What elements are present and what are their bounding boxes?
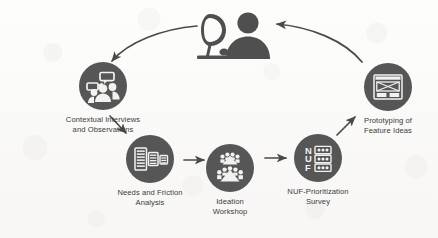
nuf-rating-chart-icon: N U F — [294, 134, 342, 182]
node-prototyping-feature-ideas[interactable]: Prototyping of Feature Ideas — [340, 63, 436, 136]
node-contextual-interviews[interactable]: Contextual Interviews and Observations — [38, 62, 168, 135]
connector-hub-to-interviews — [112, 26, 197, 61]
wireframe-mockup-icon — [364, 63, 412, 111]
node-circle-prototyping-feature-ideas — [364, 63, 412, 111]
node-label-ideation-workshop: Ideation Workshop — [213, 197, 248, 217]
video-interview-people-icon — [79, 62, 127, 110]
group-brainstorm-icon — [206, 144, 254, 192]
node-label-contextual-interviews: Contextual Interviews and Observations — [66, 115, 140, 135]
nuf-letter-f: F — [305, 162, 311, 173]
connector-prototyping-to-hub — [277, 24, 362, 62]
person-with-monitor-icon — [196, 8, 276, 70]
node-circle-nuf-prioritization-survey: N U F — [294, 134, 342, 182]
hub-user-at-computer — [196, 8, 276, 70]
node-label-nuf-prioritization-survey: NUF-Prioritization Survey — [287, 187, 348, 207]
node-label-prototyping-feature-ideas: Prototyping of Feature Ideas — [364, 116, 412, 136]
node-circle-contextual-interviews — [79, 62, 127, 110]
node-nuf-prioritization-survey[interactable]: N U F — [263, 134, 373, 207]
node-circle-ideation-workshop — [206, 144, 254, 192]
diagram-canvas: Contextual Interviews and Observations — [0, 0, 438, 238]
